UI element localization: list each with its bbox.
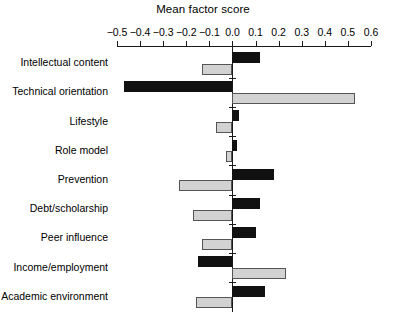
row-separator-tick bbox=[229, 195, 236, 196]
x-axis-line bbox=[117, 46, 371, 47]
x-tick-mark bbox=[140, 41, 141, 46]
bar-series-dark bbox=[232, 198, 260, 209]
x-tick-label: −0.5 bbox=[107, 26, 128, 38]
x-tick-label: −0.1 bbox=[199, 26, 220, 38]
bar-row: Academic environment bbox=[117, 286, 371, 309]
category-label: Role model bbox=[55, 144, 108, 156]
category-label: Academic environment bbox=[1, 290, 108, 302]
bar-row: Income/employment bbox=[117, 256, 371, 279]
row-separator-tick bbox=[229, 78, 236, 79]
bar-row: Intellectual content bbox=[117, 52, 371, 75]
bar-row: Role model bbox=[117, 140, 371, 163]
category-label: Prevention bbox=[58, 173, 108, 185]
x-tick-mark bbox=[209, 41, 210, 46]
category-label: Lifestyle bbox=[69, 115, 108, 127]
bar-row: Debt/scholarship bbox=[117, 198, 371, 221]
bar-series-light bbox=[216, 122, 232, 133]
x-tick-mark bbox=[371, 41, 372, 46]
row-separator-tick bbox=[229, 107, 236, 108]
row-separator-tick bbox=[229, 282, 236, 283]
bar-series-dark bbox=[232, 169, 274, 180]
category-label: Peer influence bbox=[41, 231, 108, 243]
x-tick-label: 0.1 bbox=[248, 26, 263, 38]
x-tick-mark bbox=[325, 41, 326, 46]
bar-row: Technical orientation bbox=[117, 81, 371, 104]
x-tick-label: 0.6 bbox=[364, 26, 379, 38]
bar-series-dark bbox=[232, 140, 237, 151]
x-tick-label: −0.3 bbox=[153, 26, 174, 38]
bar-series-light bbox=[202, 239, 232, 250]
bar-series-dark bbox=[124, 81, 233, 92]
bar-row: Lifestyle bbox=[117, 110, 371, 133]
category-label: Debt/scholarship bbox=[30, 202, 108, 214]
x-tick-label: −0.4 bbox=[130, 26, 151, 38]
x-tick-mark bbox=[186, 41, 187, 46]
bar-row: Prevention bbox=[117, 169, 371, 192]
bar-series-light bbox=[226, 151, 233, 162]
category-label: Technical orientation bbox=[12, 85, 108, 97]
bar-row: Peer influence bbox=[117, 227, 371, 250]
bar-series-light bbox=[232, 93, 354, 104]
chart-title: Mean factor score bbox=[0, 3, 406, 15]
bar-series-light bbox=[232, 268, 285, 279]
row-separator-tick bbox=[229, 253, 236, 254]
category-label: Intellectual content bbox=[20, 56, 108, 68]
x-tick-mark bbox=[279, 41, 280, 46]
x-tick-label: 0.3 bbox=[294, 26, 309, 38]
row-separator-tick bbox=[229, 165, 236, 166]
bar-series-dark bbox=[232, 286, 264, 297]
bar-series-light bbox=[202, 64, 232, 75]
bar-series-dark bbox=[232, 52, 260, 63]
bar-series-dark bbox=[232, 110, 239, 121]
x-tick-mark bbox=[117, 41, 118, 46]
chart-figure: Mean factor score −0.5−0.4−0.3−0.2−0.10.… bbox=[0, 0, 406, 333]
plot-area: −0.5−0.4−0.3−0.2−0.10.00.10.20.30.40.50.… bbox=[117, 46, 371, 312]
x-tick-mark bbox=[348, 41, 349, 46]
x-tick-label: 0.4 bbox=[318, 26, 333, 38]
bar-series-light bbox=[193, 210, 232, 221]
row-separator-tick bbox=[229, 224, 236, 225]
x-tick-label: 0.5 bbox=[341, 26, 356, 38]
bar-series-light bbox=[179, 180, 232, 191]
bar-series-light bbox=[196, 297, 233, 308]
x-tick-label: −0.2 bbox=[176, 26, 197, 38]
x-tick-label: 0.0 bbox=[225, 26, 240, 38]
bar-series-dark bbox=[198, 256, 233, 267]
category-label: Income/employment bbox=[13, 261, 108, 273]
row-separator-tick bbox=[229, 136, 236, 137]
x-tick-mark bbox=[163, 41, 164, 46]
x-tick-label: 0.2 bbox=[271, 26, 286, 38]
x-tick-mark bbox=[302, 41, 303, 46]
bar-series-dark bbox=[232, 227, 255, 238]
x-tick-mark bbox=[256, 41, 257, 46]
